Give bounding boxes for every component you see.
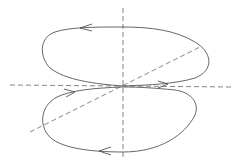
diagram-canvas <box>0 0 244 166</box>
upper-loop <box>42 27 209 86</box>
lower-loop <box>43 87 197 152</box>
